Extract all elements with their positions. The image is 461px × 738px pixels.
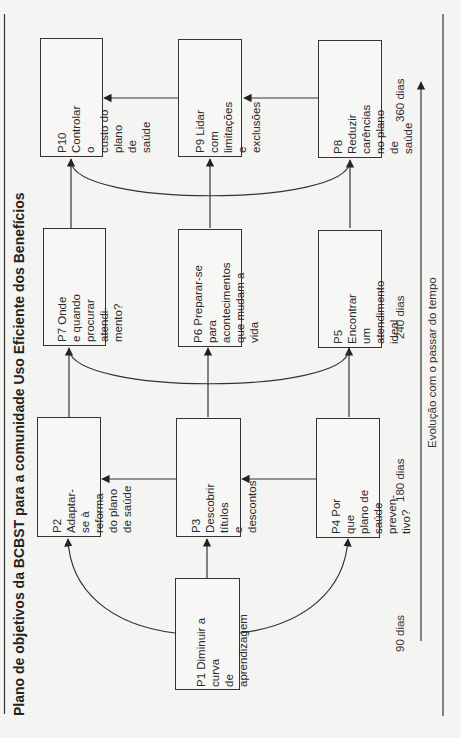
box-p6: P6 Preparar-se para acontecimentos que m… [178, 229, 242, 347]
box-p5: P5 Encontrar um atendimento ideal [318, 230, 382, 348]
box-p2-label: P2 Adaptar-se à reforma do plano de saúd… [50, 483, 134, 533]
box-p8: P8 Reduzir carências no plano de saúde [318, 40, 382, 158]
box-p1: P1 Diminuir a curva de aprendizagem [175, 578, 240, 690]
box-p4: P4 Por que plano de saúde preven- tivo? [316, 418, 380, 538]
box-p7: P7 Onde e quando procurar atendi- mento? [43, 228, 106, 346]
box-p9-label: P9 Lidar com limitações e exclusões [193, 102, 263, 153]
box-p5-label: P5 Encontrar um atendimento ideal [331, 281, 401, 344]
box-p10: P10 Controlar o custo do plano de saúde [40, 38, 103, 157]
box-p2: P2 Adaptar-se à reforma do plano de saúd… [37, 417, 101, 537]
box-p1-label: P1 Diminuir a curva de aprendizagem [194, 614, 250, 687]
box-p7-label: P7 Onde e quando procurar atendi- mento? [55, 292, 125, 342]
time-label-360: 360 dias [394, 79, 406, 122]
time-label-90: 90 dias [394, 615, 406, 652]
time-label-180: 180 dias [394, 459, 406, 502]
time-label-240: 240 dias [394, 296, 406, 339]
box-p3-label: P3 Descobrir títulos e descontos [189, 481, 259, 533]
box-p10-label: P10 Controlar o custo do plano de saúde [55, 106, 153, 153]
box-p6-label: P6 Preparar-se para acontecimentos que m… [191, 262, 261, 343]
box-p3: P3 Descobrir títulos e descontos [176, 418, 241, 537]
diagram-title: Plano de objetivos da BCBST para a comun… [11, 192, 27, 716]
time-axis-label: Evolução com o passar do tempo [426, 277, 438, 448]
box-p9: P9 Lidar com limitações e exclusões [178, 39, 242, 157]
